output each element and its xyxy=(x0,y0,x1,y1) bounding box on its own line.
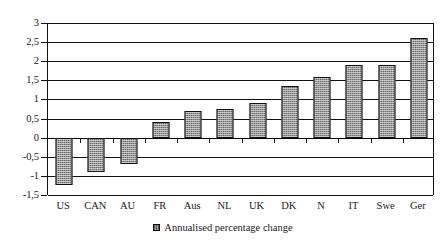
x-axis-tick-label: Swe xyxy=(370,199,402,212)
bar xyxy=(281,86,298,138)
plot-area xyxy=(47,23,434,195)
bar xyxy=(88,138,105,172)
bar xyxy=(56,138,73,186)
bar-slot xyxy=(371,23,403,195)
x-axis-labels: USCANAUFRAusNLUKDKNITSweGer xyxy=(47,199,434,215)
x-axis-tick-label: Aus xyxy=(176,199,208,212)
legend-label: Annualised percentage change xyxy=(164,221,292,234)
bar-slot xyxy=(338,23,370,195)
x-axis-tick-label: DK xyxy=(273,199,305,212)
category-tick xyxy=(371,138,372,143)
category-tick xyxy=(209,138,210,143)
bar-slot xyxy=(306,23,338,195)
bar xyxy=(152,122,169,137)
bar-slot xyxy=(242,23,274,195)
bar-chart: 32,521,510,50-0,5-1-1,5 USCANAUFRAusNLUK… xyxy=(0,0,446,241)
series-swatch-icon xyxy=(153,224,160,231)
bar-slot xyxy=(403,23,435,195)
category-tick xyxy=(274,138,275,143)
category-tick xyxy=(338,138,339,143)
bar xyxy=(410,38,427,137)
bar xyxy=(185,111,202,138)
category-tick xyxy=(145,138,146,143)
bar xyxy=(378,65,395,138)
x-axis-tick-label: N xyxy=(305,199,337,212)
bar-slot xyxy=(177,23,209,195)
gridline xyxy=(48,195,433,196)
category-tick xyxy=(306,138,307,143)
category-tick xyxy=(80,138,81,143)
bar xyxy=(346,65,363,138)
bar-slot xyxy=(209,23,241,195)
bar xyxy=(314,77,331,138)
bar xyxy=(217,109,234,138)
x-axis-tick-label: US xyxy=(47,199,79,212)
x-axis-tick-label: IT xyxy=(337,199,369,212)
chart-legend: Annualised percentage change xyxy=(0,221,446,234)
category-tick xyxy=(242,138,243,143)
bar-slot xyxy=(80,23,112,195)
bar-slot xyxy=(113,23,145,195)
bar-slot xyxy=(145,23,177,195)
y-axis-tick-marks xyxy=(0,23,47,195)
bars xyxy=(48,23,433,195)
y-axis-tick-mark xyxy=(41,195,47,196)
category-tick xyxy=(177,138,178,143)
x-axis-tick-label: CAN xyxy=(79,199,111,212)
x-axis-tick-label: Ger xyxy=(402,199,434,212)
x-axis-tick-label: AU xyxy=(112,199,144,212)
category-tick xyxy=(403,138,404,143)
bar xyxy=(249,103,266,137)
x-axis-tick-label: NL xyxy=(208,199,240,212)
bar-slot xyxy=(274,23,306,195)
bar xyxy=(120,138,137,165)
category-tick xyxy=(113,138,114,143)
x-axis-tick-label: FR xyxy=(144,199,176,212)
bar-slot xyxy=(48,23,80,195)
x-axis-tick-label: UK xyxy=(241,199,273,212)
